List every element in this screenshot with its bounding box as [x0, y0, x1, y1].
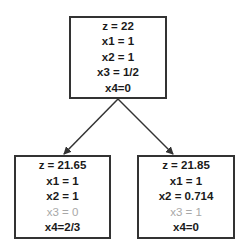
node-root-line-x1: x1 = 1: [102, 34, 134, 50]
node-root-line-x3: x3 = 1/2: [97, 65, 139, 81]
edge-root-to-left: [64, 99, 118, 154]
tree-node-root: z = 22 x1 = 1 x2 = 1 x3 = 1/2 x4=0: [69, 16, 167, 99]
node-left-line-x4: x4=2/3: [45, 220, 81, 236]
edge-root-to-right: [118, 99, 173, 154]
node-root-line-x2: x2 = 1: [102, 50, 134, 66]
node-root-line-z: z = 22: [102, 19, 134, 35]
node-left-line-z: z = 21.65: [39, 158, 87, 174]
node-left-line-x3-branched: x3 = 0: [47, 205, 79, 221]
tree-node-left: z = 21.65 x1 = 1 x2 = 1 x3 = 0 x4=2/3: [14, 155, 111, 239]
node-right-line-x1: x1 = 1: [170, 174, 202, 190]
node-right-line-x3-branched: x3 = 1: [170, 205, 202, 221]
node-right-line-x2: x2 = 0.714: [159, 189, 214, 205]
node-left-line-x1: x1 = 1: [46, 174, 78, 190]
tree-node-right: z = 21.85 x1 = 1 x2 = 0.714 x3 = 1 x4=0: [137, 155, 235, 239]
node-left-line-x2: x2 = 1: [46, 189, 78, 205]
node-right-line-z: z = 21.85: [162, 158, 210, 174]
node-root-line-x4: x4=0: [105, 81, 131, 97]
node-right-line-x4: x4=0: [173, 220, 199, 236]
